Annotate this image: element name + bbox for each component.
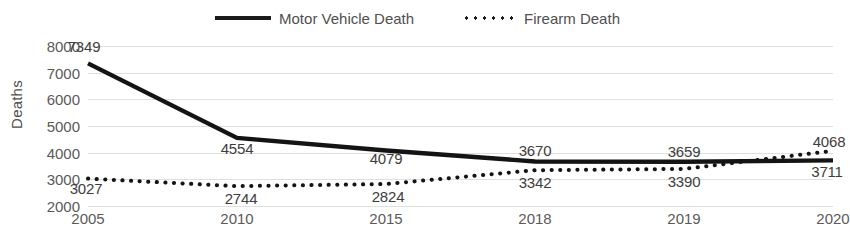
x-axis-tick-labels: 200520102015201820192020 [88,210,833,236]
x-axis-tick-label: 2015 [369,210,402,227]
legend-label-motor-vehicle-death: Motor Vehicle Death [279,10,414,27]
chart-legend: Motor Vehicle Death Firearm Death [0,4,835,32]
data-point-label: 3670 [519,142,552,159]
data-point-label: 3027 [70,179,103,196]
plot-area: 7349455440793670365937113027274428243342… [88,46,833,206]
y-axis-tick-label: 4000 [47,144,80,161]
legend-label-firearm-death: Firearm Death [524,10,620,27]
data-point-label: 7349 [68,38,101,55]
y-axis-tick-label: 6000 [47,91,80,108]
gridline [88,206,833,207]
x-axis-tick-label: 2010 [220,210,253,227]
data-point-label: 3342 [519,174,552,191]
data-point-label: 4079 [370,149,403,166]
y-axis-tick-label: 5000 [47,118,80,135]
data-point-label: 3390 [668,172,701,189]
data-point-label: 2744 [225,190,258,207]
x-axis-tick-label: 2005 [71,210,104,227]
data-point-label: 2824 [372,188,405,205]
data-point-label: 3711 [811,163,842,180]
x-axis-tick-label: 2018 [518,210,551,227]
solid-line-key-icon [215,12,271,24]
x-axis-tick-label: 2020 [816,210,849,227]
x-axis-tick-label: 2019 [667,210,700,227]
series-lines [88,46,833,206]
dotted-line-key-icon [460,12,516,24]
legend-item-firearm-death[interactable]: Firearm Death [460,10,620,27]
series-line-motor-vehicle-death [88,63,833,161]
data-point-label: 4068 [813,132,846,149]
legend-item-motor-vehicle-death[interactable]: Motor Vehicle Death [215,10,414,27]
y-axis-tick-label: 7000 [47,64,80,81]
data-point-label: 3659 [668,142,701,159]
data-point-label: 4554 [221,139,254,156]
